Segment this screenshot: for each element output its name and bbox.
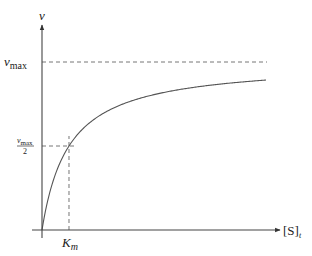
x-axis-label: [S]t — [283, 223, 302, 240]
vmax-label: vmax — [4, 54, 27, 71]
km-label: Km — [61, 235, 78, 252]
vmax-label-sub: max — [10, 60, 27, 71]
reference-lines — [42, 62, 267, 230]
y-axis-label: v — [39, 8, 45, 23]
half-vmax-numerator: vmax — [17, 136, 33, 147]
rate-curve — [42, 80, 266, 230]
michaelis-menten-chart: v vmax vmax 2 Km [S]t — [0, 0, 312, 256]
half-vmax-denominator: 2 — [23, 147, 27, 156]
half-vmax-label: vmax 2 — [17, 136, 34, 156]
